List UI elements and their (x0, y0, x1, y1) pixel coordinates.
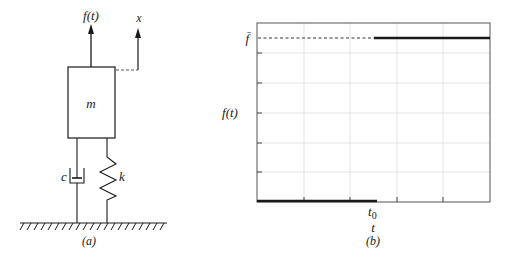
panel-b-caption: (b) (366, 234, 380, 248)
force-label: f(t) (83, 8, 99, 23)
mass-label: m (86, 96, 95, 111)
y-axis-label: f(t) (222, 105, 238, 120)
x-axis-label: t (371, 220, 375, 235)
damper-icon (70, 138, 84, 223)
panel-a-caption: (a) (82, 234, 96, 248)
panel-a-mass-spring-damper: f(t) x m c k (a) (20, 8, 167, 248)
spring-label: k (119, 169, 125, 184)
panel-b-step-chart: f̄ f(t) t0 t (b) (222, 23, 490, 248)
displacement-label: x (135, 11, 142, 25)
figure: f(t) x m c k (a) (0, 0, 505, 260)
chart-grid (257, 23, 490, 202)
spring-icon (100, 138, 116, 223)
damper-label: c (61, 169, 67, 184)
ground-icon (20, 223, 167, 230)
chart-frame (257, 23, 490, 202)
t0-tick-label: t0 (368, 204, 377, 221)
step-level-label: f̄ (245, 31, 252, 46)
